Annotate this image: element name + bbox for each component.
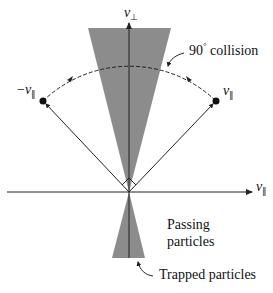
v-perp-label: v⊥ bbox=[124, 6, 138, 20]
collision-label: 90° collision bbox=[189, 44, 258, 58]
passing-line1: Passing bbox=[167, 216, 214, 233]
left-v-subscript: ∥ bbox=[31, 89, 36, 99]
v-perp-subscript: ⊥ bbox=[130, 12, 138, 22]
arc-arrow-left bbox=[67, 76, 73, 82]
trapped-particles-label: Trapped particles bbox=[159, 268, 256, 282]
right-point bbox=[213, 98, 220, 105]
trapped-pointer bbox=[138, 262, 153, 276]
collision-degree: ° bbox=[203, 41, 207, 51]
trapped-text: Trapped particles bbox=[159, 267, 256, 282]
left-point bbox=[40, 98, 47, 105]
right-v-subscript: ∥ bbox=[229, 90, 234, 100]
collision-pointer bbox=[168, 53, 184, 66]
passing-line2: particles bbox=[167, 233, 214, 250]
left-point-label: −v∥ bbox=[17, 83, 36, 97]
arc-arrow-right bbox=[186, 76, 192, 82]
collision-angle: 90 bbox=[189, 43, 203, 58]
v-par-subscript: ∥ bbox=[262, 186, 267, 196]
passing-particles-label: Passing particles bbox=[167, 216, 214, 250]
minus-sign: − bbox=[17, 82, 25, 97]
collision-text: collision bbox=[210, 43, 258, 58]
right-point-label: v∥ bbox=[223, 84, 234, 98]
v-par-label: v∥ bbox=[256, 180, 267, 194]
